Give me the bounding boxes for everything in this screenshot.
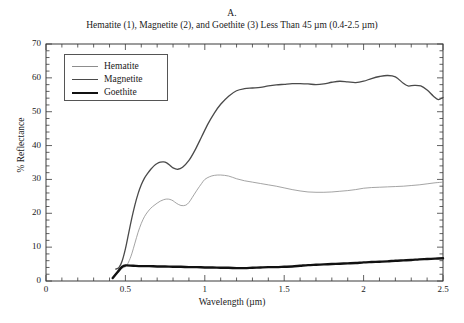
y-tick-label: 70	[15, 38, 41, 48]
legend-line-icon-hematite	[72, 62, 98, 70]
series-line-magnetite	[116, 75, 443, 269]
y-tick-label: 20	[15, 207, 41, 217]
legend-label-goethite: Goethite	[104, 87, 137, 97]
chart-legend: Hematite Magnetite Goethite	[64, 54, 168, 101]
y-tick-label: 30	[15, 173, 41, 183]
legend-item-hematite: Hematite	[65, 59, 167, 72]
x-tick-label: 0	[31, 284, 61, 294]
x-tick-label: 0.5	[110, 284, 140, 294]
series-line-goethite	[113, 258, 443, 278]
y-tick-label: 50	[15, 106, 41, 116]
chart-plot-area	[0, 0, 464, 323]
y-tick-label: 60	[15, 72, 41, 82]
legend-item-magnetite: Magnetite	[65, 72, 167, 85]
y-tick-label: 40	[15, 140, 41, 150]
x-tick-label: 1	[190, 284, 220, 294]
x-tick-label: 2	[349, 284, 379, 294]
series-line-hematite	[116, 175, 443, 269]
legend-line-icon-goethite	[72, 88, 98, 96]
figure-panel-a: A. Hematite (1), Magnetite (2), and Goet…	[0, 0, 464, 323]
legend-label-magnetite: Magnetite	[104, 74, 143, 84]
x-axis-title: Wavelength (µm)	[0, 297, 464, 307]
y-tick-label: 10	[15, 241, 41, 251]
legend-line-icon-magnetite	[72, 75, 98, 83]
x-tick-label: 2.5	[428, 284, 458, 294]
legend-item-goethite: Goethite	[65, 85, 167, 98]
legend-label-hematite: Hematite	[104, 61, 139, 71]
x-tick-label: 1.5	[269, 284, 299, 294]
